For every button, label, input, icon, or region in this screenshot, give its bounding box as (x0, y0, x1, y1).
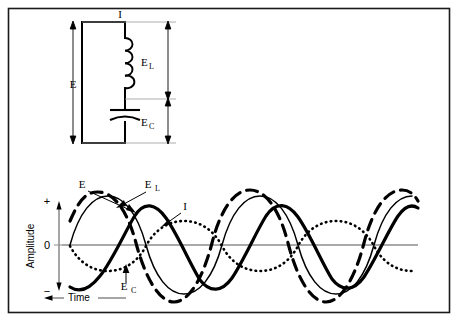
wave-label-el: E (145, 178, 152, 190)
figure-root: I E E L E C + 0 − Amplitude Time (0, 0, 458, 322)
circuit-label-capacitor-voltage-main: E (141, 116, 148, 128)
y-tick-label-minus: − (44, 285, 50, 297)
wave-label-el-sub: L (155, 184, 160, 193)
figure-canvas: I E E L E C + 0 − Amplitude Time (0, 0, 458, 322)
circuit-label-current: I (118, 8, 122, 20)
wave-label-ec-sub: C (131, 286, 136, 295)
page-background (0, 0, 458, 322)
y-tick-label-zero: 0 (44, 239, 50, 251)
y-axis-title: Amplitude (25, 223, 36, 268)
wave-label-e: E (79, 178, 86, 190)
wave-label-i: I (183, 200, 187, 212)
circuit-label-inductor-voltage-main: E (141, 56, 148, 68)
wave-label-ec: E (121, 280, 128, 292)
circuit-label-capacitor-voltage-sub: C (149, 122, 154, 131)
y-tick-label-plus: + (44, 195, 50, 207)
circuit-label-source-voltage: E (70, 78, 77, 90)
circuit-label-inductor-voltage-sub: L (149, 62, 154, 71)
x-axis-title: Time (68, 292, 90, 303)
